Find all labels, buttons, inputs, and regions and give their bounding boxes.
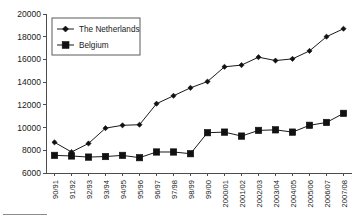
plot-area: 20000180001600014000120001000080006000 9…	[0, 0, 363, 222]
y-tick-label: 16000	[17, 54, 41, 64]
y-tick-label: 8000	[22, 145, 41, 155]
data-point-marker	[255, 127, 261, 133]
data-point-marker	[273, 58, 278, 63]
data-point-marker	[289, 129, 295, 135]
y-tick-label: 12000	[17, 100, 41, 110]
x-tick-label: 97/98	[170, 180, 179, 199]
line-chart: 20000180001600014000120001000080006000 9…	[0, 0, 363, 222]
data-point-marker	[51, 152, 57, 158]
x-tick-label: 90/91	[51, 180, 60, 199]
data-point-marker	[170, 149, 176, 155]
x-tick-label: 2005/06	[306, 180, 315, 207]
x-tick-label: 2004/05	[289, 180, 298, 207]
data-point-marker	[52, 140, 57, 145]
footer-divider	[3, 214, 47, 215]
y-tick-label: 18000	[17, 32, 41, 42]
y-tick-label: 20000	[17, 9, 41, 19]
x-tick-label: 92/93	[85, 180, 94, 199]
data-point-marker	[341, 26, 346, 31]
data-point-marker	[85, 154, 91, 160]
x-tick-label: 96/97	[153, 180, 162, 199]
data-point-marker	[136, 154, 142, 160]
x-tick-label: 95/96	[136, 180, 145, 199]
data-point-marker	[221, 129, 227, 135]
x-tick-label: 98/99	[187, 180, 196, 199]
y-tick-label: 6000	[22, 168, 41, 178]
legend-label: The Netherlands	[79, 25, 140, 34]
chart-svg: 20000180001600014000120001000080006000 9…	[0, 0, 363, 222]
x-tick-label: 2002/03	[255, 180, 264, 207]
y-axis: 20000180001600014000120001000080006000	[17, 9, 46, 178]
data-point-marker	[238, 133, 244, 139]
square-marker	[62, 42, 69, 49]
y-tick-label: 14000	[17, 77, 41, 87]
chart-legend: The NetherlandsBelgium	[52, 18, 140, 55]
x-tick-label: 2001/02	[238, 180, 247, 207]
data-point-marker	[272, 127, 278, 133]
x-tick-label: 2006/07	[323, 180, 332, 207]
x-axis: 90/9191/9292/9393/9494/9595/9696/9797/98…	[46, 173, 352, 207]
x-tick-label: 2003/04	[272, 180, 281, 207]
data-point-marker	[68, 153, 74, 159]
data-point-marker	[171, 93, 176, 98]
data-point-marker	[204, 129, 210, 135]
data-point-marker	[120, 123, 125, 128]
data-point-marker	[119, 152, 125, 158]
data-point-marker	[102, 153, 108, 159]
data-point-marker	[323, 119, 329, 125]
x-tick-label: 2000/01	[221, 180, 230, 207]
legend-label: Belgium	[79, 41, 109, 50]
x-tick-label: 2007/08	[340, 180, 349, 207]
y-tick-label: 10000	[17, 123, 41, 133]
data-point-marker	[306, 122, 312, 128]
x-tick-label: 94/95	[119, 180, 128, 199]
series-belgium	[51, 110, 346, 161]
x-tick-label: 93/94	[102, 180, 111, 199]
data-point-marker	[153, 149, 159, 155]
data-point-marker	[290, 56, 295, 61]
data-point-marker	[239, 63, 244, 68]
x-tick-label: 91/92	[68, 180, 77, 199]
data-point-marker	[188, 85, 193, 90]
data-point-marker	[256, 55, 261, 60]
data-point-marker	[187, 150, 193, 156]
data-point-marker	[340, 110, 346, 116]
legend-item[interactable]: Belgium	[57, 41, 109, 50]
x-tick-label: 99/00	[204, 180, 213, 199]
